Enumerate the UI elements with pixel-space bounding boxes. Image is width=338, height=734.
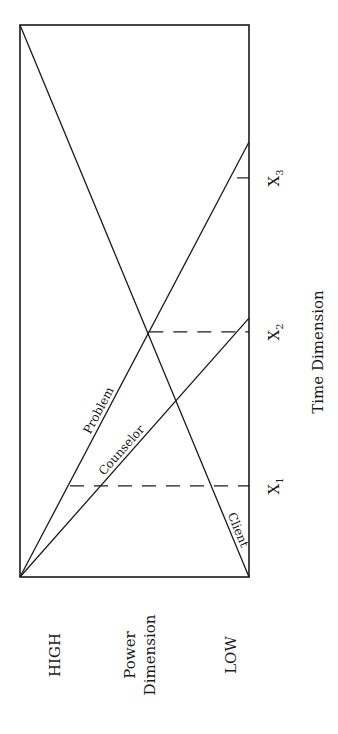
- series-line-client: [20, 25, 249, 577]
- x-marker-label-x3: X3: [265, 169, 285, 186]
- y-high-label: HIGH: [46, 633, 64, 677]
- series-label-counselor: Counselor: [96, 422, 148, 478]
- series-label-client: Client: [225, 510, 252, 549]
- y-axis-label-line2: Dimension: [141, 614, 159, 695]
- power-time-diagram: X1X2X3 Problem Counselor Client Time Dim…: [0, 0, 338, 734]
- y-axis-label-line1: Power: [121, 630, 139, 678]
- x-marker-label-x1: X1: [265, 477, 285, 494]
- series-layer: [20, 25, 249, 577]
- series-line-counselor: [20, 318, 249, 577]
- series-line-problem: [20, 142, 249, 577]
- x-marker-label-x2: X2: [265, 323, 285, 340]
- marker-layer: X1X2X3: [70, 169, 285, 494]
- y-low-label: LOW: [222, 636, 240, 674]
- x-axis-label: Time Dimension: [309, 290, 327, 414]
